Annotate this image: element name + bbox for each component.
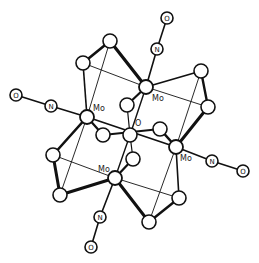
atom-label-o_center: O [135, 119, 141, 128]
atom-label-n_top: N [154, 46, 159, 54]
atom-o_center [123, 128, 137, 142]
atom-a_top [103, 34, 117, 48]
atom-label-n_right: N [209, 158, 214, 166]
atom-a_ul [76, 56, 90, 70]
atom-label-mo_top: Mo [152, 94, 164, 103]
atom-label-o_left: O [13, 92, 19, 100]
atom-mo_bottom [108, 171, 122, 185]
atom-label-mo_bottom: Mo [98, 165, 110, 174]
atom-a_ll [53, 188, 67, 202]
atom-mo_right [169, 140, 183, 154]
atom-a_r [201, 100, 215, 114]
atom-label-mo_left: Mo [93, 104, 105, 113]
atom-a_ur [194, 64, 208, 78]
atom-label-mo_right: Mo [180, 154, 192, 163]
atom-label-o_top: O [164, 15, 170, 23]
atom-a_inner_dn [126, 152, 140, 166]
atom-label-o_bottom: O [88, 244, 94, 252]
molecular-structure-diagram: MoMoMoMoONONONONO [0, 0, 259, 263]
atom-a_mid_l [96, 128, 110, 142]
atom-label-n_left: N [48, 103, 53, 111]
atom-a_lr [172, 191, 186, 205]
atom-a_mid_r [153, 122, 167, 136]
atom-label-o_right: O [240, 168, 246, 176]
atom-mo_top [139, 80, 153, 94]
atom-a_inner_up [120, 98, 134, 112]
atom-a_bot [142, 215, 156, 229]
atom-a_l [46, 148, 60, 162]
atom-label-n_bottom: N [97, 214, 102, 222]
atom-mo_left [80, 110, 94, 124]
